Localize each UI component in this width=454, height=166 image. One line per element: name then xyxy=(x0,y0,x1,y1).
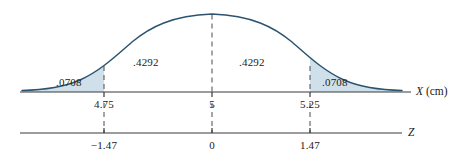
right-middle-probability-label: .4292 xyxy=(239,57,265,68)
x-axis-name: X xyxy=(416,85,423,97)
z-axis-label: Z xyxy=(408,127,414,139)
z-tick-label-147: 1.47 xyxy=(300,140,320,151)
left-middle-probability-label: .4292 xyxy=(133,57,159,68)
x-tick-label-5: 5 xyxy=(209,99,215,110)
z-tick-label-0: 0 xyxy=(209,140,215,151)
normal-distribution-figure: .0708 .4292 .4292 .0708 4.75 5 5.25 −1.4… xyxy=(0,0,454,166)
z-axis-name: Z xyxy=(408,126,414,138)
x-axis-label: X (cm) xyxy=(416,86,448,98)
left-tail-probability-label: .0708 xyxy=(56,77,82,88)
x-tick-label-475: 4.75 xyxy=(94,99,114,110)
right-tail-probability-label: .0708 xyxy=(322,77,348,88)
x-tick-label-525: 5.25 xyxy=(300,99,320,110)
z-tick-label-neg147: −1.47 xyxy=(91,140,117,151)
x-axis-unit: (cm) xyxy=(426,85,448,97)
axis-tick-marks xyxy=(104,92,310,133)
